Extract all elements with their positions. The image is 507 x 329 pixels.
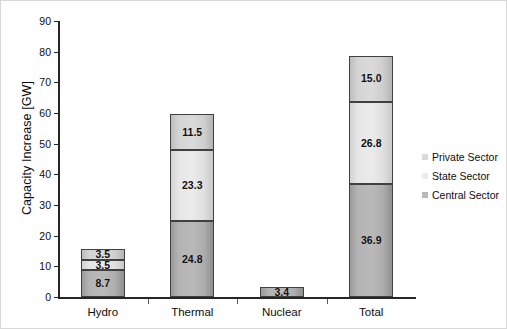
bar-value-label: 8.7 xyxy=(95,278,110,289)
bar-value-label: 15.0 xyxy=(361,73,381,84)
x-axis-label-nuclear: Nuclear xyxy=(232,306,332,318)
legend-swatch-icon xyxy=(422,192,428,198)
bar-value-label: 11.5 xyxy=(182,127,202,138)
x-axis-label-hydro: Hydro xyxy=(53,306,153,318)
legend-item[interactable]: Central Sector xyxy=(422,185,499,204)
bar-value-label: 23.3 xyxy=(182,180,202,191)
legend-swatch-icon xyxy=(422,154,428,160)
bar-segment: 3.5 xyxy=(81,260,125,271)
x-axis-label-total: Total xyxy=(321,306,421,318)
bar-value-label: 24.8 xyxy=(182,254,202,265)
bar-segment: 15.0 xyxy=(349,56,393,102)
bar-value-label: 3.5 xyxy=(95,249,110,260)
bar-segment: 24.8 xyxy=(170,221,214,297)
bar-segment: 3.4 xyxy=(260,287,304,297)
legend-swatch-icon xyxy=(422,173,428,179)
bar-segment: 11.5 xyxy=(170,114,214,149)
legend-label: State Sector xyxy=(432,170,490,182)
legend-label: Central Sector xyxy=(432,189,499,201)
x-axis-label-thermal: Thermal xyxy=(142,306,242,318)
bar-segment: 36.9 xyxy=(349,184,393,297)
bar-value-label: 36.9 xyxy=(361,235,381,246)
chart-legend: Private SectorState SectorCentral Sector xyxy=(422,147,499,204)
bar-segment: 3.5 xyxy=(81,249,125,260)
bar-value-label: 3.4 xyxy=(274,287,289,298)
bar-value-label: 3.5 xyxy=(95,260,110,271)
stacked-bar-chart: Capacity Increase [GW] 01020304050607080… xyxy=(0,0,507,329)
legend-item[interactable]: Private Sector xyxy=(422,147,499,166)
bar-segment: 8.7 xyxy=(81,270,125,297)
legend-item[interactable]: State Sector xyxy=(422,166,499,185)
legend-label: Private Sector xyxy=(432,151,498,163)
bar-segment: 23.3 xyxy=(170,150,214,221)
bar-value-label: 26.8 xyxy=(361,138,381,149)
bar-segment: 26.8 xyxy=(349,102,393,184)
